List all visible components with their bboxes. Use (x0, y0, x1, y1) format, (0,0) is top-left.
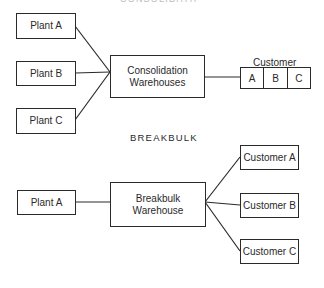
warehouse-label-line2: Warehouse (133, 205, 184, 217)
consolidation-plant-b-box: Plant B (16, 61, 76, 86)
breakbulk-customer-c-box: Customer C (240, 239, 299, 264)
plant-label: Plant A (31, 197, 63, 209)
connector-plant-c-to-consolidation (75, 72, 110, 120)
customer-cell-b: B (263, 68, 286, 88)
plant-label: Plant A (30, 20, 62, 32)
connector-plant-a-to-consolidation (75, 26, 110, 72)
breakbulk-section-title: BREAKBULK (130, 132, 198, 143)
breakbulk-customer-b-box: Customer B (240, 193, 299, 218)
customer-cell-c: C (287, 68, 310, 88)
warehouse-label-line1: Breakbulk (136, 193, 180, 205)
warehouse-label-line2: Warehouses (130, 77, 186, 89)
plant-label: Plant C (30, 115, 63, 127)
warehouse-label-line1: Consolidation (127, 65, 188, 77)
consolidation-plant-c-box: Plant C (16, 108, 76, 134)
connector-breakbulk-to-customer-c (205, 202, 240, 251)
customer-label: Customer B (243, 200, 296, 212)
breakbulk-warehouse-box: Breakbulk Warehouse (110, 182, 206, 227)
breakbulk-customer-a-box: Customer A (240, 145, 299, 170)
consolidation-warehouse-box: Consolidation Warehouses (110, 55, 205, 98)
plant-label: Plant B (30, 68, 62, 80)
consolidation-plant-a-box: Plant A (16, 13, 76, 39)
customer-cell-a: A (241, 68, 263, 88)
connector-breakbulk-to-customer-b (205, 202, 240, 205)
customer-label: Customer C (243, 246, 296, 258)
connector-plant-b-to-consolidation (75, 72, 110, 73)
breakbulk-plant-a-box: Plant A (17, 190, 76, 215)
customer-label: Customer A (243, 152, 295, 164)
connector-breakbulk-to-customer-a (205, 157, 240, 202)
customer-group-box: A B C (240, 67, 311, 89)
